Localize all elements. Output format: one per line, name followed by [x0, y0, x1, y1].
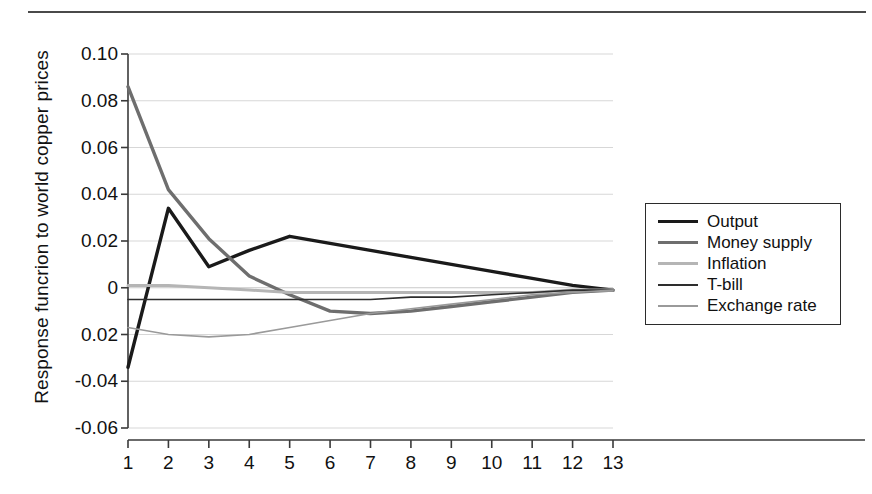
legend-line-swatch — [658, 284, 698, 286]
legend-line-swatch — [658, 220, 698, 223]
legend-item: Exchange rate — [646, 295, 840, 316]
legend-item: T-bill — [646, 274, 840, 295]
chart-legend: OutputMoney supplyInflationT-billExchang… — [645, 203, 841, 325]
x-axis-tick-label: 10 — [472, 452, 512, 474]
x-axis-tick-label: 12 — [553, 452, 593, 474]
x-axis-tick-label: 1 — [108, 452, 148, 474]
legend-label: T-bill — [707, 275, 743, 295]
x-axis-tick-label: 5 — [270, 452, 310, 474]
x-axis-tick-label: 6 — [310, 452, 350, 474]
legend-item: Money supply — [646, 232, 840, 253]
x-axis-tick-label: 13 — [593, 452, 633, 474]
x-axis-tick-label: 7 — [351, 452, 391, 474]
figure-container: Response funcrion to world copper prices… — [0, 0, 872, 494]
x-axis-tick-label: 8 — [391, 452, 431, 474]
x-axis-tick-label: 11 — [512, 452, 552, 474]
legend-label: Output — [707, 212, 758, 232]
legend-label: Money supply — [707, 233, 812, 253]
legend-item: Output — [646, 211, 840, 232]
legend-line-swatch — [658, 262, 698, 265]
x-axis-tick-label: 4 — [229, 452, 269, 474]
x-axis-tick-label: 3 — [189, 452, 229, 474]
legend-line-swatch — [658, 241, 698, 244]
x-axis-tick-label: 9 — [431, 452, 471, 474]
legend-item: Inflation — [646, 253, 840, 274]
x-axis-tick-label: 2 — [148, 452, 188, 474]
legend-line-swatch — [658, 305, 698, 307]
legend-label: Exchange rate — [707, 296, 817, 316]
legend-label: Inflation — [707, 254, 767, 274]
